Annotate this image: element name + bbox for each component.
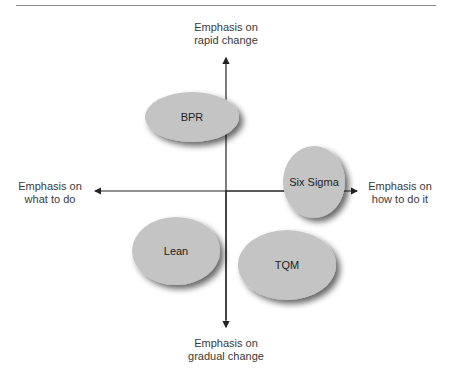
axis-label-bottom: Emphasis on gradual change bbox=[176, 337, 276, 363]
axis-label-right: Emphasis on how to do it bbox=[362, 180, 438, 206]
node-label: Lean bbox=[164, 245, 188, 258]
node-label: BPR bbox=[181, 111, 204, 124]
node-label: TQM bbox=[275, 259, 299, 272]
axis-label-left: Emphasis on what to do bbox=[14, 180, 86, 206]
node-label: Six Sigma bbox=[289, 176, 339, 189]
axis-label-top: Emphasis on rapid change bbox=[186, 21, 266, 47]
